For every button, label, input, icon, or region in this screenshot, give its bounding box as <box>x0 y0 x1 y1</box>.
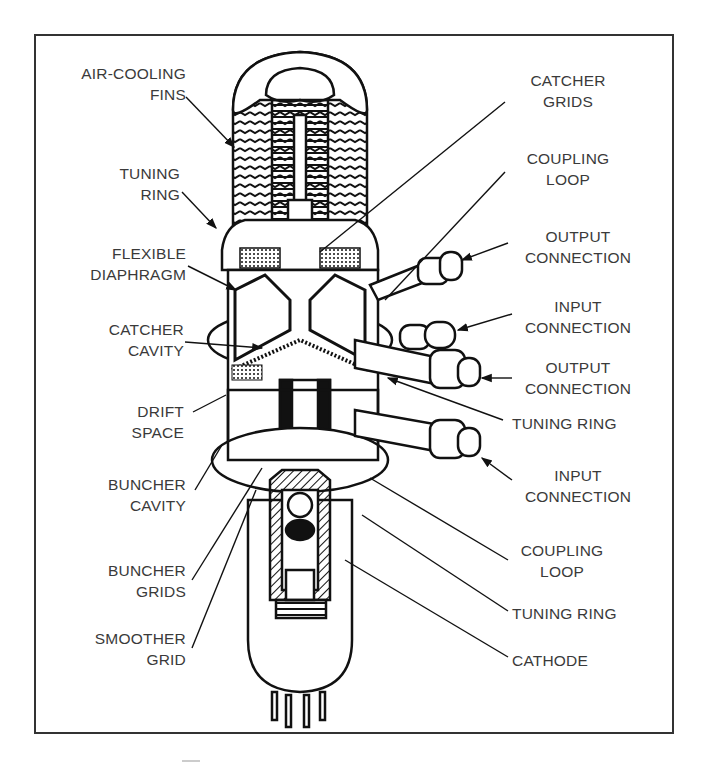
label-buncher-cavity: BUNCHER CAVITY <box>44 474 186 516</box>
label-flexible-diaphragm: FLEXIBLE DIAPHRAGM <box>44 243 186 285</box>
label-input-connection-top: INPUT CONNECTION <box>508 296 648 338</box>
label-tuning-ring-mid: TUNING RING <box>512 413 652 434</box>
cathode-section <box>248 470 352 727</box>
label-output-connection-top: OUTPUT CONNECTION <box>508 226 648 268</box>
label-tuning-ring-bottom: TUNING RING <box>512 603 652 624</box>
label-drift-space: DRIFT SPACE <box>44 401 184 443</box>
cooling-fins-section <box>222 52 378 270</box>
label-cathode: CATHODE <box>512 650 652 671</box>
label-buncher-grids: BUNCHER GRIDS <box>44 560 186 602</box>
label-catcher-grids: CATCHER GRIDS <box>506 70 630 112</box>
caption-mark <box>182 760 200 762</box>
label-coupling-loop-bottom: COUPLING LOOP <box>500 540 624 582</box>
label-catcher-cavity: CATCHER CAVITY <box>44 319 184 361</box>
label-tuning-ring-top: TUNING RING <box>44 163 180 205</box>
label-air-cooling-fins: AIR-COOLING FINS <box>44 63 186 105</box>
label-output-connection-mid: OUTPUT CONNECTION <box>508 357 648 399</box>
cavity-section <box>208 270 392 492</box>
label-input-connection-bottom: INPUT CONNECTION <box>508 465 648 507</box>
label-smoother-grid: SMOOTHER GRID <box>44 628 186 670</box>
label-coupling-loop-top: COUPLING LOOP <box>506 148 630 190</box>
connectors <box>355 252 480 458</box>
